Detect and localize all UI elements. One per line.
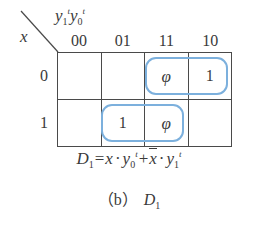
row-header-column: 0 1 <box>33 52 55 147</box>
column-label-00: 00 <box>57 31 101 51</box>
caption-symbol: D1 <box>138 191 161 208</box>
caption-symbol-subscript: 1 <box>155 200 160 211</box>
equation-equals: = <box>94 149 106 168</box>
kmap-cell-r0-c00[interactable] <box>58 53 102 99</box>
row-label-0: 0 <box>33 52 55 100</box>
column-label-10: 10 <box>188 31 232 51</box>
equation-term2-factor: y1t <box>166 149 181 168</box>
group-row0-cols-11-10 <box>145 57 228 95</box>
kmap-cell-r1-c10[interactable] <box>189 100 232 146</box>
row-label-1: 1 <box>33 100 55 148</box>
equation-plus: + <box>138 149 150 168</box>
equation-dot-2: · <box>157 149 167 168</box>
caption-label: （b） <box>98 191 138 208</box>
equation-term2-var-negated: x <box>149 148 157 169</box>
kmap-cell-r0-c01[interactable] <box>102 53 146 99</box>
column-label-11: 11 <box>145 31 189 51</box>
equation-term2-factor-subscript: 1 <box>174 159 179 170</box>
kmap-cell-r1-c00[interactable] <box>58 100 102 146</box>
equation-term1-factor-subscript: 0 <box>130 159 135 170</box>
figure-caption: （b）D1 <box>0 186 258 210</box>
equation-term1-factor: y0t <box>123 149 138 168</box>
equation-lhs: D1 <box>76 149 93 168</box>
kmap-cell-value: φ <box>162 115 171 132</box>
column-variable-y0: y0t <box>70 6 85 25</box>
kmap-cell-value: φ <box>162 68 171 85</box>
kmap-cell-value: 1 <box>119 115 127 131</box>
column-variables-label: y1ty0t <box>55 7 85 24</box>
equation-term2-factor-superscript: t <box>179 149 182 159</box>
column-variable-y1-subscript: 1 <box>63 16 68 27</box>
karnaugh-map-figure: y1ty0t x 00 01 11 10 0 1 φ 1 1 φ D1=x·y0… <box>0 0 258 228</box>
column-label-01: 01 <box>101 31 145 51</box>
column-variable-y1: y1t <box>55 6 70 25</box>
boolean-equation: D1=x·y0t+x·y1t <box>0 148 258 169</box>
equation-dot-1: · <box>113 149 123 168</box>
kmap-cell-value: 1 <box>206 68 214 84</box>
column-variable-y0-superscript: t <box>83 6 86 16</box>
group-row1-cols-01-11 <box>101 104 184 142</box>
column-header-row: 00 01 11 10 <box>57 31 232 51</box>
column-variable-y0-subscript: 0 <box>78 16 83 27</box>
row-variable-label: x <box>20 28 28 45</box>
equation-term1-var: x <box>105 149 113 168</box>
